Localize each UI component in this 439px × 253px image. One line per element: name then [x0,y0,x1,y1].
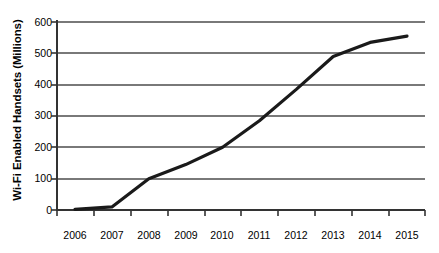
x-tick-label: 2010 [202,230,242,240]
x-tick-label: 2013 [313,230,353,240]
plot-area [0,0,439,253]
x-tick-label: 2009 [166,230,206,240]
x-tick-label: 2015 [387,230,427,240]
gridlines [57,22,425,179]
x-tick-label: 2008 [129,230,169,240]
x-tick-label: 2006 [55,230,95,240]
x-tick-label: 2014 [350,230,390,240]
x-tick-label: 2012 [276,230,316,240]
x-tick-label: 2007 [92,230,132,240]
chart-figure: Wi-Fi Enabled Handsets (Millions) 600 50… [0,0,439,253]
data-series-line [75,36,407,209]
x-tick-label: 2011 [239,230,279,240]
